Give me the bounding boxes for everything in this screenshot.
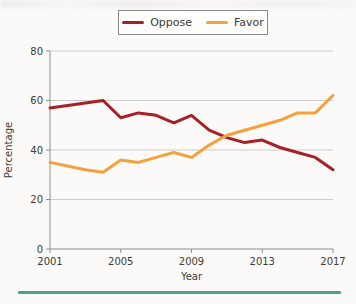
oppose-line-swatch bbox=[122, 21, 144, 25]
x-axis-title: Year bbox=[180, 271, 203, 282]
legend-item-oppose: Oppose bbox=[122, 17, 192, 28]
x-tick-label: 2013 bbox=[250, 256, 275, 267]
x-tick-label: 2001 bbox=[37, 256, 62, 267]
y-tick-label: 20 bbox=[30, 194, 43, 205]
gridlines bbox=[50, 51, 333, 200]
favor-line bbox=[50, 96, 333, 173]
textbook-page: Oppose Favor 020406080200120052009201320… bbox=[0, 0, 356, 304]
y-tick-label: 0 bbox=[37, 244, 43, 255]
y-tick-label: 60 bbox=[30, 95, 43, 106]
legend-item-favor: Favor bbox=[206, 17, 264, 28]
y-tick-label: 80 bbox=[30, 46, 43, 57]
page-divider-rule bbox=[18, 291, 341, 294]
chart-legend: Oppose Favor bbox=[118, 10, 268, 35]
legend-label-favor: Favor bbox=[234, 17, 264, 28]
favor-line-swatch bbox=[206, 21, 228, 25]
x-tick-label: 2005 bbox=[108, 256, 133, 267]
data-series bbox=[50, 96, 333, 173]
line-chart: 02040608020012005200920132017PercentageY… bbox=[0, 0, 356, 304]
axes bbox=[46, 51, 333, 253]
y-tick-label: 40 bbox=[30, 145, 43, 156]
page-bleedthrough-text bbox=[0, 0, 356, 8]
x-tick-label: 2017 bbox=[320, 256, 345, 267]
oppose-line bbox=[50, 101, 333, 170]
y-axis-title: Percentage bbox=[3, 122, 14, 178]
legend-label-oppose: Oppose bbox=[150, 17, 192, 28]
x-tick-label: 2009 bbox=[179, 256, 204, 267]
